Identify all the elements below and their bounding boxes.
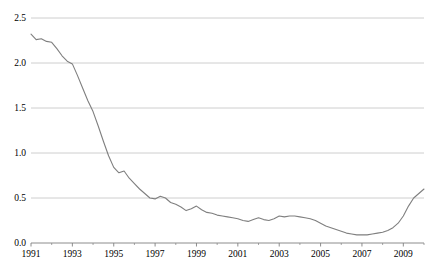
data-series-line <box>31 34 424 235</box>
y-axis-tick-label: 2.0 <box>2 58 26 68</box>
x-axis-tick-label: 1995 <box>94 249 134 259</box>
x-axis-tick-label: 2007 <box>342 249 382 259</box>
y-axis-tick-label: 2.5 <box>2 13 26 23</box>
plot-area <box>0 0 434 276</box>
x-axis-tick-label: 2005 <box>301 249 341 259</box>
line-chart: 0.00.51.01.52.02.5 199119931995199719992… <box>0 0 434 276</box>
x-axis-tick-label: 1997 <box>135 249 175 259</box>
series-line <box>31 34 424 235</box>
x-axis-tick-label: 2001 <box>218 249 258 259</box>
y-axis-tick-label: 0.5 <box>2 193 26 203</box>
x-axis-tick-label: 2009 <box>383 249 423 259</box>
x-axis-ticks <box>31 243 424 247</box>
y-axis-tick-label: 1.0 <box>2 148 26 158</box>
x-axis-tick-label: 1993 <box>52 249 92 259</box>
x-axis-tick-label: 1999 <box>176 249 216 259</box>
x-axis-tick-label: 2003 <box>259 249 299 259</box>
x-axis-tick-label: 1991 <box>11 249 51 259</box>
y-axis-tick-label: 0.0 <box>2 238 26 248</box>
y-axis-tick-label: 1.5 <box>2 103 26 113</box>
gridlines <box>31 18 424 198</box>
